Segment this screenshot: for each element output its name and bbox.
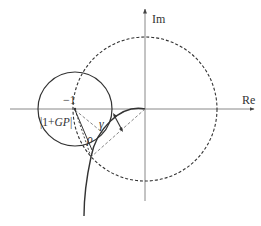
modulus-margin-label: ρ bbox=[86, 132, 93, 146]
critical-point-label: −1 bbox=[63, 93, 76, 107]
phase-margin-arc bbox=[114, 115, 122, 130]
real-axis-label: Re bbox=[242, 93, 255, 107]
nyquist-curve bbox=[84, 108, 145, 216]
phase-margin-arrowhead-bottom bbox=[119, 127, 123, 132]
imag-axis-label: Im bbox=[152, 12, 166, 26]
critical-point bbox=[74, 108, 76, 110]
phase-margin-label: γ bbox=[99, 117, 104, 131]
distance-label: |1+GP| bbox=[40, 116, 72, 129]
nyquist-diagram: Im Re −1 |1+GP| γ ρ bbox=[0, 0, 261, 226]
